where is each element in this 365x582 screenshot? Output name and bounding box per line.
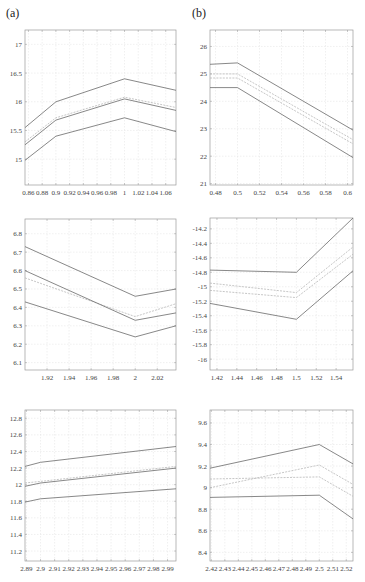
y-tick-label: 9.6 xyxy=(198,419,207,427)
series-line-lower xyxy=(210,271,353,320)
plot-frame xyxy=(210,218,353,370)
y-tick-label: 9.4 xyxy=(198,441,207,449)
y-tick-label: 22 xyxy=(200,153,208,161)
y-tick-label: 16.5 xyxy=(10,70,23,78)
x-tick-label: 2.45 xyxy=(246,565,259,573)
y-tick-label: 6.4 xyxy=(13,304,22,312)
x-tick-label: 2.98 xyxy=(147,565,160,573)
x-tick-label: 1.96 xyxy=(85,374,98,382)
y-tick-label: 9.2 xyxy=(198,463,207,471)
x-tick-label: 2.9 xyxy=(36,565,45,573)
x-tick-label: 2.49 xyxy=(300,565,313,573)
y-tick-label: 8.8 xyxy=(198,506,207,514)
y-tick-label: -15.4 xyxy=(192,312,207,320)
x-tick-label: 1.52 xyxy=(310,374,323,382)
x-tick-label: 1.98 xyxy=(107,374,120,382)
y-tick-label: 6.1 xyxy=(13,359,22,367)
y-tick-label: -15 xyxy=(198,283,208,291)
series-line-lower xyxy=(210,495,353,519)
y-tick-label: 11.8 xyxy=(10,498,22,506)
x-tick-label: 2.92 xyxy=(63,565,76,573)
x-tick-label: 2.95 xyxy=(105,565,118,573)
y-tick-label: 11.6 xyxy=(10,514,22,522)
x-tick-label: 0.56 xyxy=(297,189,310,197)
series-line-lower xyxy=(25,118,176,161)
x-tick-label: 2 xyxy=(133,374,137,382)
plot-frame xyxy=(25,219,176,370)
x-tick-label: 0.54 xyxy=(275,189,288,197)
x-tick-label: 2.91 xyxy=(49,565,62,573)
y-tick-label: 25 xyxy=(200,70,208,78)
chart-b-top: 0.480.50.520.540.560.580.6212223242526 xyxy=(200,30,353,197)
y-tick-label: 6.7 xyxy=(13,249,22,257)
x-tick-label: 2.5 xyxy=(315,565,324,573)
x-tick-label: 1.44 xyxy=(231,374,244,382)
x-tick-label: 0.48 xyxy=(209,189,222,197)
y-tick-label: 21 xyxy=(200,180,208,188)
x-tick-label: 0.96 xyxy=(91,189,104,197)
y-tick-label: 6.6 xyxy=(13,267,22,275)
y-tick-label: -16 xyxy=(198,356,208,364)
y-tick-label: -14.2 xyxy=(192,225,207,233)
x-tick-label: 1.42 xyxy=(211,374,224,382)
chart-b-middle: 1.421.441.461.481.51.521.54-16-15.8-15.6… xyxy=(192,218,353,382)
plot-frame xyxy=(25,30,176,185)
y-tick-label: 6.2 xyxy=(13,341,22,349)
y-tick-label: 23 xyxy=(200,125,208,133)
x-tick-label: 2.44 xyxy=(232,565,245,573)
y-tick-label: 12.4 xyxy=(10,448,23,456)
chart-b-bottom: 2.422.432.442.452.462.472.482.492.52.512… xyxy=(198,410,353,573)
y-tick-label: 11.2 xyxy=(10,548,22,556)
y-tick-label: 12 xyxy=(15,481,23,489)
x-tick-label: 0.86 xyxy=(22,189,35,197)
x-tick-label: 1.48 xyxy=(270,374,283,382)
y-tick-label: 26 xyxy=(200,43,208,51)
y-tick-label: 6.8 xyxy=(13,230,22,238)
plot-frame xyxy=(210,410,353,561)
x-tick-label: 0.6 xyxy=(343,189,352,197)
x-tick-label: 0.94 xyxy=(77,189,90,197)
x-tick-label: 0.88 xyxy=(36,189,49,197)
y-tick-label: 8.6 xyxy=(198,527,207,535)
series-line-mid-upper xyxy=(210,247,353,293)
chart-a-top: 0.860.880.90.920.940.960.9811.021.041.06… xyxy=(10,30,176,197)
x-tick-label: 2.94 xyxy=(91,565,104,573)
y-tick-label: -15.6 xyxy=(192,327,207,335)
x-tick-label: 0.9 xyxy=(52,189,61,197)
x-tick-label: 1.46 xyxy=(251,374,264,382)
series-line-mid xyxy=(25,271,176,321)
y-tick-label: 15 xyxy=(15,156,23,164)
chart-a-middle: 1.921.941.961.9822.026.16.26.36.46.56.66… xyxy=(13,219,176,382)
x-tick-label: 0.92 xyxy=(63,189,76,197)
x-tick-label: 0.5 xyxy=(233,189,242,197)
x-tick-label: 1 xyxy=(123,189,127,197)
x-tick-label: 2.02 xyxy=(151,374,164,382)
y-tick-label: -14.4 xyxy=(192,240,207,248)
x-tick-label: 2.52 xyxy=(340,565,353,573)
x-tick-label: 0.52 xyxy=(253,189,266,197)
y-tick-label: -14.8 xyxy=(192,269,207,277)
y-tick-label: 15.5 xyxy=(10,127,23,135)
y-tick-label: 9 xyxy=(204,484,208,492)
y-tick-label: 11.4 xyxy=(10,531,22,539)
series-line-mid-upper xyxy=(25,278,176,317)
chart-a-bottom: 2.892.92.912.922.932.942.952.962.972.982… xyxy=(10,410,176,573)
x-tick-label: 1.94 xyxy=(63,374,76,382)
y-tick-label: 16 xyxy=(15,98,23,106)
series-line-upper xyxy=(210,445,353,469)
x-tick-label: 1.5 xyxy=(292,374,301,382)
x-tick-label: 1.02 xyxy=(132,189,145,197)
y-tick-label: -15.8 xyxy=(192,341,207,349)
y-tick-label: 6.3 xyxy=(13,322,22,330)
series-line-mid-upper xyxy=(210,465,353,488)
y-tick-label: 12.6 xyxy=(10,431,23,439)
x-tick-label: 0.58 xyxy=(319,189,332,197)
plot-frame xyxy=(210,30,353,185)
y-tick-label: 12.2 xyxy=(10,465,23,473)
x-tick-label: 1.92 xyxy=(41,374,54,382)
series-line-mid xyxy=(25,99,176,145)
x-tick-label: 2.97 xyxy=(133,565,146,573)
y-tick-label: -15.2 xyxy=(192,298,207,306)
series-line-upper xyxy=(25,79,176,128)
x-tick-label: 2.51 xyxy=(327,565,340,573)
